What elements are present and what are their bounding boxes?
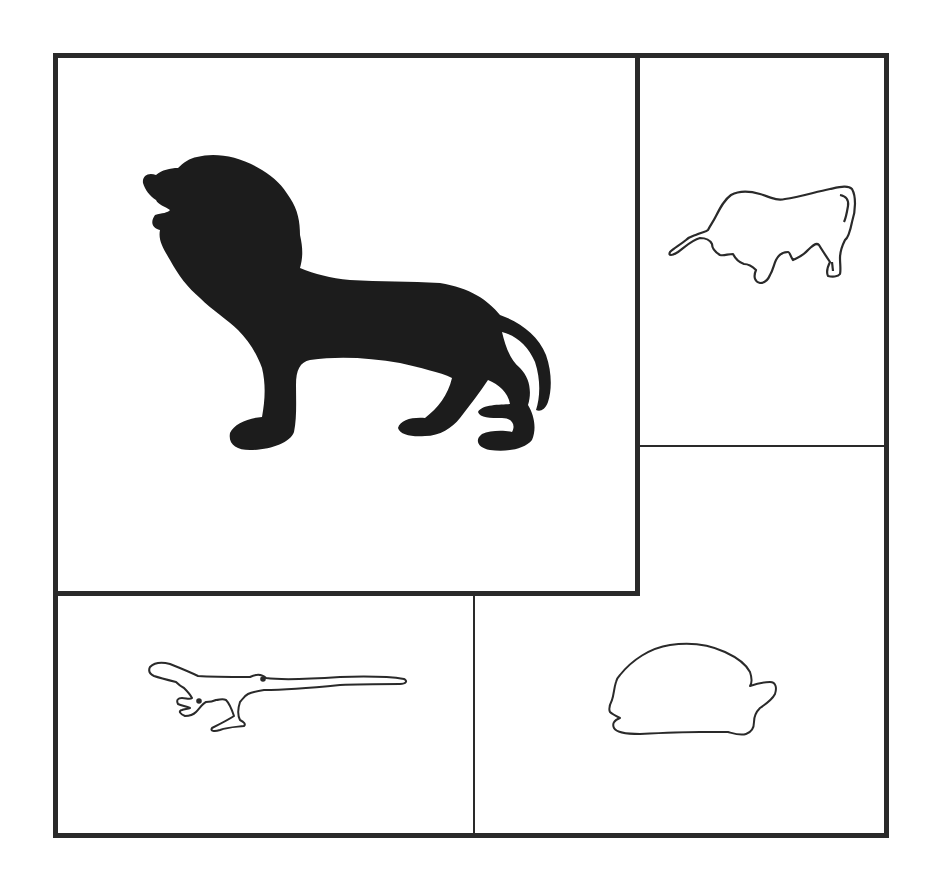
bull-icon (669, 187, 855, 283)
lizard-icon (149, 663, 406, 731)
turtle-icon (609, 644, 776, 735)
figure-svg (0, 0, 944, 888)
lion-icon (143, 155, 551, 451)
figure-canvas: lion bull empty panel lizard turtle (0, 0, 944, 888)
